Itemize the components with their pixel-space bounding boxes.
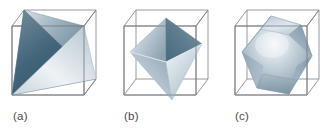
cuboctahedron-solid	[242, 16, 312, 94]
panel-tetrahedron: (a)	[0, 0, 112, 132]
panel-label-a: (a)	[13, 111, 28, 123]
tetrahedron-solid	[12, 10, 96, 95]
panel-octahedron: (b)	[112, 0, 224, 132]
figure-container: (a)	[0, 0, 335, 132]
panel-label-b: (b)	[124, 111, 139, 123]
panel-label-c: (c)	[235, 111, 249, 123]
octahedron-solid	[130, 18, 202, 100]
panel-cuboctahedron: (c)	[223, 0, 335, 132]
